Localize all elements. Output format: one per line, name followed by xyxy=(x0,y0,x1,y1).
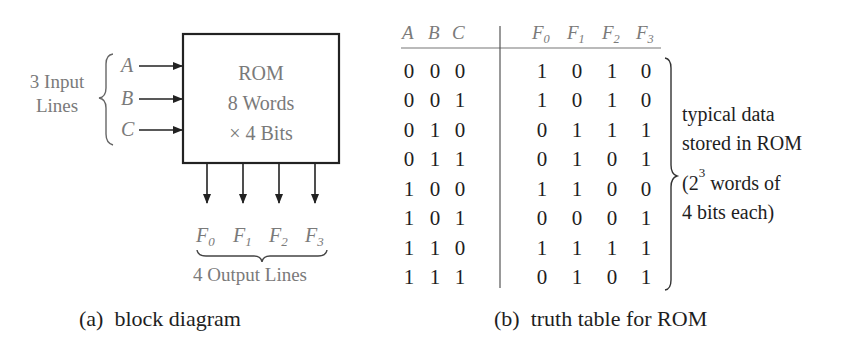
output-group-label: 4 Output Lines xyxy=(193,264,307,286)
header-a: A xyxy=(402,22,414,44)
input-label-c: C xyxy=(121,118,134,141)
rom-box-label: ROM 8 Words × 4 Bits xyxy=(183,58,339,148)
header-c: C xyxy=(452,22,465,44)
input-label-b: B xyxy=(121,87,133,110)
header-f1: F1 xyxy=(567,22,585,47)
data-brace xyxy=(665,58,677,290)
caption-b: (b) truth table for ROM xyxy=(494,306,707,332)
input-group-label: 3 Input Lines xyxy=(22,70,92,118)
output-label-f2: F2 xyxy=(269,224,288,250)
header-f2: F2 xyxy=(602,22,620,47)
output-label-f3: F3 xyxy=(305,224,324,250)
output-brace xyxy=(197,250,327,262)
output-label-f1: F1 xyxy=(233,224,252,250)
input-brace xyxy=(99,54,113,145)
caption-a: (a) block diagram xyxy=(79,306,241,332)
header-b: B xyxy=(428,22,440,44)
input-label-a: A xyxy=(121,54,133,77)
data-annotation: typical data stored in ROM (23 words of … xyxy=(682,100,802,227)
header-f0: F0 xyxy=(532,22,550,47)
output-label-f0: F0 xyxy=(196,224,215,250)
header-f3: F3 xyxy=(636,22,654,47)
